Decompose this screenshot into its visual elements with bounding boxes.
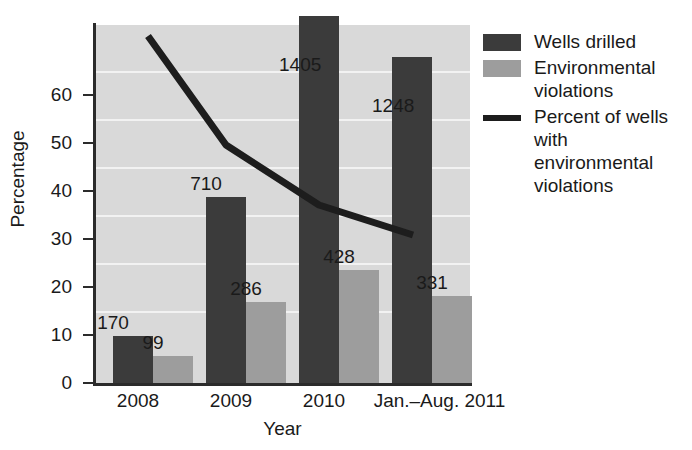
legend-swatch-line-segment-icon [483,115,521,121]
legend-swatch-dark-square-icon [483,34,521,51]
percent-wells-trend-line [95,25,470,383]
y-tick-label-0: 0 [14,373,72,392]
chart-figure: 60 50 40 30 20 10 0 Percentage 2008 2009… [0,0,692,450]
x-tick-label-2011: Jan.–Aug. 2011 [352,390,527,412]
legend-label-environmental-violations: Environmental violations [534,56,683,102]
plot-area [95,25,470,383]
legend-item-environmental-violations[interactable]: Environmental violations [483,56,683,102]
y-tick-20 [83,286,94,288]
y-tick-50 [83,142,94,144]
bar-label-wells-drilled-2010: 1405 [279,55,319,74]
bar-label-violations-2009: 286 [226,279,266,298]
y-tick-0 [83,382,94,384]
bar-label-violations-2010: 428 [319,247,359,266]
y-tick-label-10: 10 [14,325,72,344]
y-tick-60 [83,94,94,96]
bar-label-wells-drilled-2011: 1248 [372,96,412,115]
y-tick-10 [83,334,94,336]
bar-label-violations-2011: 331 [412,273,452,292]
y-axis-title: Percentage [7,99,29,259]
bar-label-violations-2008: 99 [133,333,173,352]
y-tick-40 [83,190,94,192]
y-tick-30 [83,238,94,240]
bar-label-wells-drilled-2008: 170 [93,313,133,332]
x-axis-title: Year [95,418,470,440]
legend-label-wells-drilled: Wells drilled [534,30,636,53]
bar-label-wells-drilled-2009: 710 [186,174,226,193]
chart-legend: Wells drilled Environmental violations P… [483,30,683,200]
legend-label-percent-wells: Percent of wells with environmental viol… [534,105,683,197]
legend-item-wells-drilled[interactable]: Wells drilled [483,30,683,53]
legend-item-percent-wells[interactable]: Percent of wells with environmental viol… [483,105,683,197]
x-axis-line [93,383,472,386]
legend-swatch-light-square-icon [483,60,521,77]
y-tick-label-20: 20 [14,277,72,296]
